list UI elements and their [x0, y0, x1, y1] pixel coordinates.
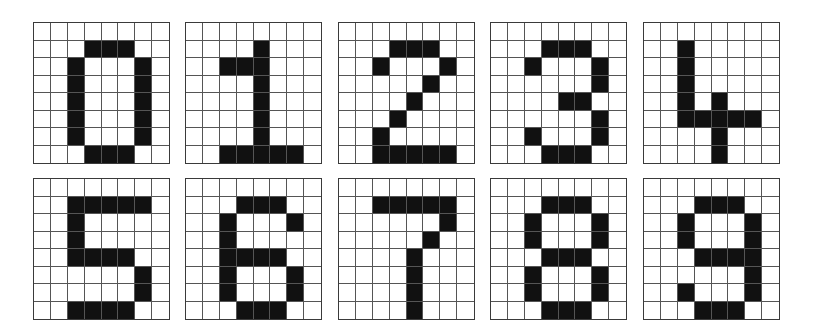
- pixel-off: [745, 179, 762, 197]
- pixel-off: [390, 214, 407, 232]
- pixel-off: [678, 197, 695, 215]
- pixel-on: [423, 232, 440, 250]
- pixel-on: [440, 214, 457, 232]
- pixel-off: [152, 249, 169, 267]
- pixel-off: [440, 93, 457, 111]
- pixel-off: [304, 249, 321, 267]
- pixel-off: [407, 214, 424, 232]
- pixel-on: [525, 284, 542, 302]
- pixel-off: [644, 146, 661, 164]
- pixel-on: [678, 93, 695, 111]
- pixel-off: [51, 93, 68, 111]
- pixel-off: [644, 302, 661, 320]
- pixel-off: [644, 267, 661, 285]
- pixel-off: [644, 111, 661, 129]
- pixel-on: [220, 267, 237, 285]
- pixel-off: [762, 111, 779, 129]
- pixel-off: [356, 197, 373, 215]
- pixel-off: [102, 284, 119, 302]
- pixel-off: [220, 302, 237, 320]
- pixel-off: [695, 146, 712, 164]
- pixel-on: [559, 41, 576, 59]
- pixel-off: [287, 179, 304, 197]
- pixel-off: [407, 128, 424, 146]
- pixel-off: [186, 41, 203, 59]
- pixel-on: [390, 146, 407, 164]
- pixel-on: [525, 58, 542, 76]
- pixel-off: [542, 179, 559, 197]
- pixel-on: [237, 249, 254, 267]
- pixel-off: [661, 214, 678, 232]
- pixel-on: [678, 284, 695, 302]
- pixel-on: [592, 111, 609, 129]
- pixel-off: [542, 214, 559, 232]
- pixel-off: [559, 111, 576, 129]
- pixel-off: [304, 146, 321, 164]
- pixel-off: [457, 197, 474, 215]
- pixel-on: [68, 58, 85, 76]
- digit-panel-4: [643, 22, 780, 164]
- pixel-off: [186, 232, 203, 250]
- pixel-on: [745, 284, 762, 302]
- pixel-off: [457, 179, 474, 197]
- pixel-off: [85, 23, 102, 41]
- pixel-off: [186, 146, 203, 164]
- pixel-off: [270, 93, 287, 111]
- digit-panel-0: [33, 22, 170, 164]
- pixel-off: [762, 41, 779, 59]
- pixel-off: [491, 284, 508, 302]
- pixel-off: [592, 179, 609, 197]
- pixel-off: [85, 93, 102, 111]
- pixel-on: [85, 197, 102, 215]
- pixel-on: [220, 146, 237, 164]
- pixel-on: [287, 284, 304, 302]
- pixel-off: [508, 93, 525, 111]
- pixel-on: [678, 214, 695, 232]
- pixel-off: [51, 197, 68, 215]
- pixel-on: [220, 214, 237, 232]
- pixel-off: [237, 284, 254, 302]
- pixel-off: [762, 284, 779, 302]
- pixel-off: [491, 302, 508, 320]
- pixel-off: [712, 23, 729, 41]
- pixel-on: [592, 267, 609, 285]
- pixel-off: [491, 58, 508, 76]
- pixel-on: [575, 302, 592, 320]
- pixel-off: [762, 58, 779, 76]
- pixel-off: [203, 23, 220, 41]
- pixel-off: [102, 58, 119, 76]
- pixel-off: [287, 58, 304, 76]
- pixel-off: [102, 232, 119, 250]
- pixel-off: [609, 93, 626, 111]
- pixel-off: [373, 179, 390, 197]
- pixel-off: [287, 111, 304, 129]
- pixel-off: [575, 284, 592, 302]
- pixel-on: [237, 197, 254, 215]
- pixel-off: [508, 249, 525, 267]
- pixel-off: [745, 197, 762, 215]
- pixel-off: [152, 284, 169, 302]
- pixel-off: [609, 179, 626, 197]
- pixel-off: [762, 214, 779, 232]
- pixel-off: [407, 111, 424, 129]
- pixel-off: [491, 111, 508, 129]
- pixel-off: [85, 111, 102, 129]
- pixel-on: [575, 197, 592, 215]
- pixel-off: [356, 76, 373, 94]
- pixel-off: [373, 93, 390, 111]
- pixel-off: [525, 249, 542, 267]
- pixel-on: [712, 146, 729, 164]
- pixel-off: [220, 197, 237, 215]
- pixel-off: [661, 267, 678, 285]
- pixel-off: [661, 41, 678, 59]
- pixel-off: [339, 23, 356, 41]
- pixel-off: [203, 267, 220, 285]
- pixel-off: [85, 58, 102, 76]
- pixel-on: [85, 249, 102, 267]
- pixel-off: [152, 58, 169, 76]
- pixel-off: [152, 41, 169, 59]
- pixel-on: [254, 146, 271, 164]
- pixel-off: [203, 249, 220, 267]
- pixel-off: [34, 232, 51, 250]
- pixel-off: [559, 58, 576, 76]
